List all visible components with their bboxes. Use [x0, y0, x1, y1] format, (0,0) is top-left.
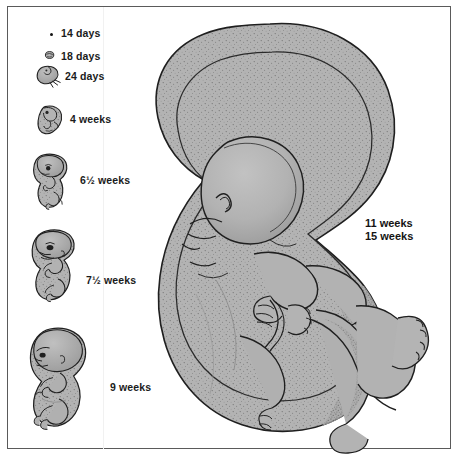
stage-art-6-5-weeks [31, 152, 77, 212]
stage-label-18-days: 18 days [61, 50, 101, 62]
stage-art-14-days [50, 33, 53, 36]
stage-label-14-days: 14 days [61, 27, 101, 39]
stage-label-4-weeks: 4 weeks [70, 113, 111, 125]
stage-art-7-5-weeks [28, 227, 86, 307]
figure-root: 14 days 18 days 24 days 4 weeks [0, 0, 459, 458]
stage-art-9-weeks [24, 325, 102, 431]
stage-art-24-days [35, 64, 65, 90]
stage-label-24-days: 24 days [65, 70, 105, 82]
main-label-15-weeks: 15 weeks [365, 230, 413, 243]
main-label-11-weeks: 11 weeks [365, 217, 413, 230]
stage-art-18-days [44, 49, 56, 61]
stage-art-4-weeks [36, 104, 68, 138]
